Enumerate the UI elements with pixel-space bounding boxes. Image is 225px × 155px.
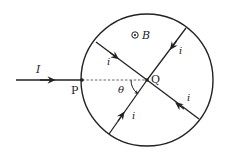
point-p-dot bbox=[80, 78, 84, 82]
arrow-lower-left-icon bbox=[118, 115, 123, 122]
point-p-label: P bbox=[71, 85, 78, 96]
angle-label: θ bbox=[118, 85, 124, 95]
lower-left-chord bbox=[109, 80, 147, 134]
branch-current-upper-right-label: i bbox=[179, 46, 182, 56]
arrow-upper-right-icon bbox=[172, 41, 177, 47]
point-q-label: Q bbox=[151, 74, 160, 85]
circuit-diagram bbox=[0, 0, 225, 155]
branch-current-lower-left-label: i bbox=[132, 111, 135, 121]
input-current-label: I bbox=[36, 64, 40, 75]
point-q-dot bbox=[145, 78, 149, 82]
arrow-upper-left-icon bbox=[110, 53, 116, 58]
upper-left-chord bbox=[96, 42, 147, 80]
magnetic-field-label: B bbox=[142, 30, 150, 41]
angle-arc bbox=[131, 80, 137, 93]
branch-current-upper-left-label: i bbox=[107, 57, 110, 67]
field-dot bbox=[134, 34, 136, 36]
branch-current-lower-right-label: i bbox=[187, 93, 190, 103]
